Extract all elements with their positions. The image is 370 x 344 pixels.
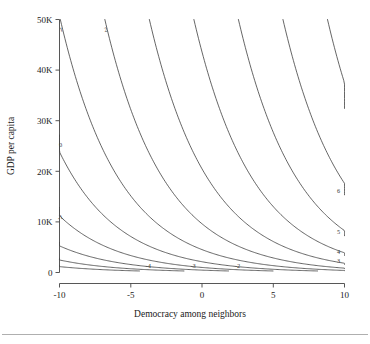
- axes-lines: [56, 20, 345, 288]
- contour-label: -2: [235, 262, 240, 269]
- contour-label: -4: [146, 262, 151, 269]
- x-tick-label: 10: [340, 290, 350, 300]
- contour-line: [105, 20, 345, 269]
- contour-line: [60, 242, 229, 271]
- x-tick-label: -5: [127, 290, 135, 300]
- contour-line: [283, 20, 345, 195]
- contour-plot-svg: -4-3-2-10123456 010K20K30K40K50K -10-505…: [0, 0, 370, 344]
- contour-line: [194, 20, 345, 256]
- y-tick-label: 0: [48, 268, 53, 278]
- contour-line: [60, 258, 184, 271]
- y-tick-label: 40K: [37, 65, 53, 75]
- contour-label: 3: [337, 257, 340, 264]
- y-tick-label: 10K: [37, 217, 53, 227]
- x-tick-label: 0: [200, 290, 205, 300]
- x-axis-line: [60, 284, 345, 288]
- contour-label: 0: [58, 141, 62, 148]
- contour-line: [328, 20, 345, 109]
- y-tick-label-group: 010K20K30K40K50K: [37, 15, 53, 278]
- y-tick-label: 50K: [37, 15, 53, 25]
- x-tick-label: 5: [271, 290, 276, 300]
- contour-line: [238, 20, 344, 236]
- y-tick-label: 20K: [37, 167, 53, 177]
- contour-curve-group: [60, 20, 345, 271]
- y-axis-title: GDP per capita: [6, 116, 16, 175]
- contour-line: [149, 20, 344, 265]
- x-axis-title: Democracy among neighbors: [134, 309, 246, 319]
- contour-label: 5: [337, 228, 340, 235]
- contour-line: [60, 207, 274, 271]
- x-tick-label-group: -10-50510: [54, 290, 350, 300]
- contour-label: 6: [337, 187, 340, 194]
- contour-label: -1: [56, 213, 63, 221]
- contour-line: [60, 20, 344, 271]
- contour-label-group: -4-3-2-10123456: [56, 25, 340, 269]
- contour-label: 4: [337, 248, 340, 255]
- contour-label: -3: [190, 262, 195, 269]
- x-tick-label: -10: [54, 290, 66, 300]
- contour-line: [60, 135, 318, 271]
- contour-plot-figure: -4-3-2-10123456 010K20K30K40K50K -10-505…: [0, 0, 370, 344]
- y-tick-label: 30K: [37, 116, 53, 126]
